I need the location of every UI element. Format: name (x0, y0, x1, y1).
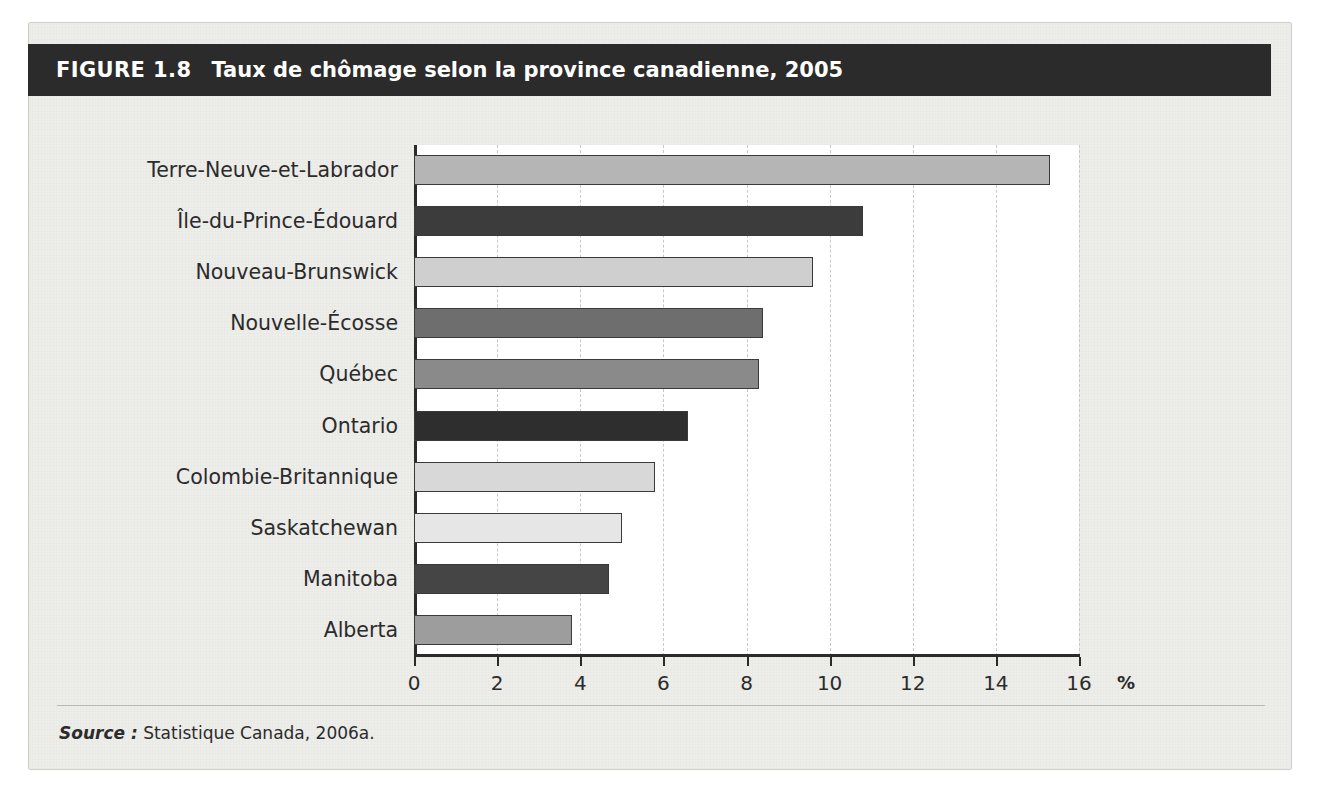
bar (414, 206, 863, 236)
x-tick-label: 10 (817, 671, 842, 695)
x-tick-mark (663, 657, 665, 666)
bar-row: Nouveau-Brunswick (29, 247, 1079, 297)
bar-row: Nouvelle-Écosse (29, 298, 1079, 348)
x-tick-label: 8 (740, 671, 753, 695)
x-tick-label: 2 (491, 671, 504, 695)
bar-row: Québec (29, 349, 1079, 399)
x-tick-label: 16 (1066, 671, 1091, 695)
x-tick-mark (747, 657, 749, 666)
bar-row: Ontario (29, 401, 1079, 451)
bar (414, 462, 655, 492)
x-tick-mark (580, 657, 582, 666)
source-divider (57, 705, 1265, 706)
bar (414, 615, 572, 645)
axis-unit-label: % (1117, 672, 1135, 693)
x-tick-mark (414, 657, 416, 666)
x-tick-mark (1079, 657, 1081, 666)
category-label: Saskatchewan (70, 503, 410, 553)
x-tick-label: 4 (574, 671, 587, 695)
category-label: Alberta (70, 605, 410, 655)
figure-title-band: FIGURE 1.8 Taux de chômage selon la prov… (28, 44, 1271, 96)
x-tick-label: 6 (657, 671, 670, 695)
bar-row: Colombie-Britannique (29, 452, 1079, 502)
bar (414, 513, 622, 543)
bar (414, 411, 688, 441)
x-tick-mark (830, 657, 832, 666)
chart-canvas: 0246810121416 Terre-Neuve-et-LabradorÎle… (29, 23, 1293, 771)
x-tick-mark (497, 657, 499, 666)
bar (414, 359, 759, 389)
bar (414, 308, 763, 338)
category-label: Nouvelle-Écosse (70, 298, 410, 348)
category-label: Manitoba (70, 554, 410, 604)
x-tick-mark (913, 657, 915, 666)
source-keyword: Source : (59, 723, 138, 743)
source-text: Statistique Canada, 2006a. (138, 723, 375, 743)
figure-page: 0246810121416 Terre-Neuve-et-LabradorÎle… (0, 0, 1320, 807)
figure-title: Taux de chômage selon la province canadi… (211, 58, 843, 82)
bar-row: Terre-Neuve-et-Labrador (29, 145, 1079, 195)
bar-row: Île-du-Prince-Édouard (29, 196, 1079, 246)
bar-row: Alberta (29, 605, 1079, 655)
bar-row: Saskatchewan (29, 503, 1079, 553)
category-label: Ontario (70, 401, 410, 451)
category-label: Terre-Neuve-et-Labrador (70, 145, 410, 195)
category-label: Nouveau-Brunswick (70, 247, 410, 297)
bar (414, 155, 1050, 185)
gridline (1079, 145, 1080, 656)
category-label: Québec (70, 349, 410, 399)
x-tick-mark (996, 657, 998, 666)
x-tick-label: 14 (983, 671, 1008, 695)
x-tick-label: 12 (900, 671, 925, 695)
bar (414, 257, 813, 287)
category-label: Colombie-Britannique (70, 452, 410, 502)
category-label: Île-du-Prince-Édouard (70, 196, 410, 246)
figure-container: 0246810121416 Terre-Neuve-et-LabradorÎle… (28, 22, 1292, 770)
figure-number: FIGURE 1.8 (56, 58, 191, 82)
source-note: Source : Statistique Canada, 2006a. (59, 723, 375, 743)
bar-row: Manitoba (29, 554, 1079, 604)
bar (414, 564, 609, 594)
x-tick-label: 0 (408, 671, 421, 695)
